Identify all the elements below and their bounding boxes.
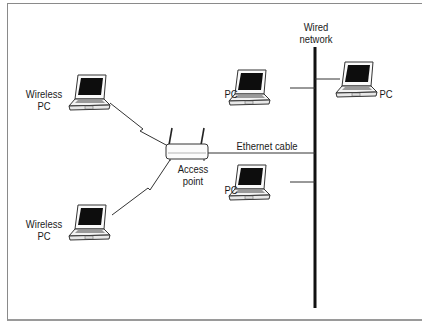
label-line: Wireless: [20, 88, 68, 100]
laptop-icon: [66, 73, 112, 113]
laptop-icon: [66, 203, 112, 243]
label-line: point: [172, 175, 215, 187]
label-line: network: [294, 33, 339, 45]
ethernet-cable-label: Ethernet cable: [228, 140, 305, 152]
wireless-link-bottom: [112, 160, 170, 215]
pc-lower-label: PC: [222, 184, 239, 196]
wireless-pc-bottom-label: Wireless PC: [20, 218, 68, 242]
pc-upper-label: PC: [222, 88, 239, 100]
label-line: PC: [20, 100, 68, 112]
pc-right-label: PC: [377, 88, 394, 100]
laptop-icon: [226, 163, 272, 203]
wired-network-label: Wired network: [294, 21, 339, 45]
label-line: Wired: [294, 21, 339, 33]
access-point-label: Access point: [172, 163, 215, 187]
wireless-link-top: [110, 103, 168, 146]
wireless-router-icon: [166, 128, 208, 161]
wireless-pc-top-label: Wireless PC: [20, 88, 68, 112]
label-line: PC: [20, 230, 68, 242]
laptop-icon: [333, 60, 379, 100]
label-line: Access: [172, 163, 215, 175]
label-line: Wireless: [20, 218, 68, 230]
